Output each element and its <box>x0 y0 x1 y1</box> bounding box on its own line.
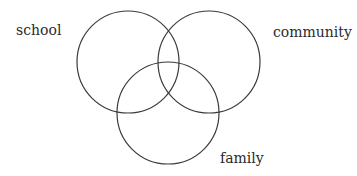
venn-diagram: school community family <box>0 0 357 176</box>
community-label: community <box>273 24 352 40</box>
school-label: school <box>16 22 62 38</box>
family-label: family <box>220 150 264 166</box>
